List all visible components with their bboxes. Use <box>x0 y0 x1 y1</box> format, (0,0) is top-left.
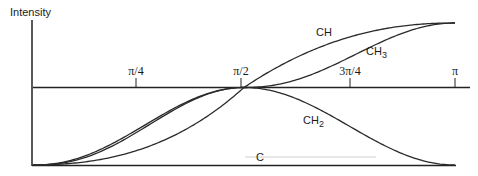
label-ch3-sub: 3 <box>382 50 387 60</box>
label-ch3-main: CH <box>366 45 382 57</box>
ch3-curve <box>33 23 455 165</box>
ch-curve <box>33 23 455 165</box>
label-ch: CH <box>316 26 332 38</box>
tick-label-pi: π <box>452 64 458 78</box>
label-ch2-sub: 2 <box>319 119 324 129</box>
tick-label-pi4: π/4 <box>128 64 143 78</box>
intensity-chart: π/4 π/2 3π/4 π Intensity C CH CH3 CH2 <box>0 0 478 176</box>
tick-label-3pi4: 3π/4 <box>339 64 360 78</box>
label-ch3: CH3 <box>366 45 387 60</box>
label-ch2: CH2 <box>303 114 324 129</box>
ch2-curve <box>33 88 455 166</box>
tick-label-pi2: π/2 <box>233 64 248 78</box>
label-ch2-main: CH <box>303 114 319 126</box>
y-axis-label: Intensity <box>10 6 51 18</box>
label-c: C <box>256 151 264 163</box>
